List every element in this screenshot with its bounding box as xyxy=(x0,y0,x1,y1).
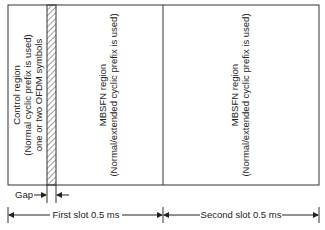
mbsfn-subframe-diagram: Control region (Normal cyclic prefix is … xyxy=(0,0,325,230)
mbsfn-region-title: MBSFN region xyxy=(97,64,108,126)
control-region-title: Control region xyxy=(11,65,22,125)
mbsfn-region-note: (Normal/extended cyclic prefix is used) xyxy=(240,13,251,176)
gap-strip xyxy=(47,5,56,185)
control-region-note: (Normal cyclic prefix is used) xyxy=(22,34,33,155)
first-slot-label: First slot 0.5 ms xyxy=(52,209,119,220)
mbsfn-region-title: MBSFN region xyxy=(229,64,240,126)
second-slot-label: Second slot 0.5 ms xyxy=(201,209,282,220)
control-region-symbols: one or two OFDM symbols xyxy=(33,39,44,152)
mbsfn-region-note: (Normal/extended cyclic prefix is used) xyxy=(108,13,119,176)
mbsfn-region-second-slot: MBSFN region (Normal/extended cyclic pre… xyxy=(229,13,251,176)
control-region: Control region (Normal cyclic prefix is … xyxy=(11,34,44,155)
mbsfn-region-first-slot: MBSFN region (Normal/extended cyclic pre… xyxy=(97,13,119,176)
gap-label: Gap xyxy=(15,189,33,200)
